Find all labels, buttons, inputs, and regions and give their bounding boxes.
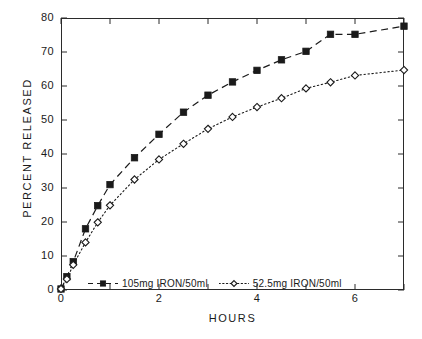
y-tick-label: 10 — [24, 250, 54, 261]
legend-label: 52.5mg IRON/50ml — [253, 278, 342, 289]
data-point-marker — [278, 95, 285, 102]
y-tick-label: 80 — [24, 12, 54, 23]
data-point-marker — [327, 79, 334, 86]
legend-entry: 52.5mg IRON/50ml — [219, 278, 342, 289]
data-point-marker — [327, 31, 333, 37]
x-tick-label: 6 — [340, 293, 370, 304]
data-point-marker — [229, 79, 235, 85]
axis-ticks — [61, 18, 404, 290]
data-point-marker — [94, 219, 101, 226]
x-tick-label: 2 — [144, 293, 174, 304]
x-tick-label: 4 — [242, 293, 272, 304]
data-point-marker — [82, 226, 88, 232]
data-point-marker — [180, 140, 187, 147]
data-point-marker — [131, 155, 137, 161]
data-point-marker — [229, 113, 236, 120]
data-point-marker — [254, 67, 260, 73]
data-point-marker — [302, 85, 309, 92]
data-point-marker — [205, 92, 211, 98]
data-point-marker — [253, 103, 260, 110]
legend-entry: 105mg IRON/50ml — [88, 278, 208, 289]
chart-legend: 105mg IRON/50ml52.5mg IRON/50ml — [88, 276, 342, 290]
data-point-marker — [352, 31, 358, 37]
data-point-marker — [303, 48, 309, 54]
data-point-marker — [107, 181, 113, 187]
data-point-marker — [351, 72, 358, 79]
chart-figure: 01020304050607080 0246 PERCENT RELEASED … — [0, 0, 422, 339]
data-point-marker — [401, 23, 407, 29]
y-tick-label: 70 — [24, 46, 54, 57]
data-point-marker — [82, 239, 89, 246]
data-series-group — [57, 23, 407, 293]
legend-label: 105mg IRON/50ml — [122, 278, 208, 289]
data-point-marker — [400, 66, 407, 73]
data-point-marker — [278, 57, 284, 63]
y-axis-title: PERCENT RELEASED — [21, 58, 33, 238]
legend-dashed-square-sample-icon — [88, 279, 118, 288]
data-point-marker — [95, 202, 101, 208]
x-tick-label: 0 — [46, 293, 76, 304]
x-axis-title: HOURS — [161, 312, 304, 324]
data-point-marker — [180, 109, 186, 115]
data-point-marker — [156, 131, 162, 137]
legend-dotted-diamond-sample-icon — [219, 279, 249, 288]
data-point-marker — [204, 125, 211, 132]
